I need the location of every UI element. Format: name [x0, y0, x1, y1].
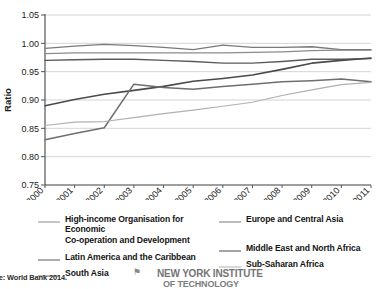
- legend-label-south-asia: South Asia: [65, 268, 109, 278]
- legend-item-latin-america-caribbean: Latin America and the Caribbean: [38, 252, 213, 264]
- legend-label-middle-east-north-africa: Middle East and North Africa: [246, 243, 360, 253]
- svg-text:2002: 2002: [83, 185, 104, 200]
- svg-text:2001: 2001: [54, 185, 75, 200]
- svg-text:2003: 2003: [113, 185, 134, 200]
- svg-text:2006: 2006: [202, 185, 223, 200]
- x-axis-tick-label: 2008: [261, 185, 282, 200]
- legend-item-high-income-oecd: High-income Organisation for Economic Co…: [38, 214, 213, 245]
- y-axis-title: Ratio: [2, 88, 13, 112]
- x-axis-tick-label: 2006: [202, 185, 223, 200]
- legend-item-europe-central-asia: Europe and Central Asia: [219, 214, 376, 226]
- series-line-3: [45, 58, 371, 106]
- x-axis-tick-label: 2001: [54, 185, 75, 200]
- svg-text:2005: 2005: [172, 185, 193, 200]
- svg-text:2004: 2004: [143, 185, 164, 200]
- legend-swatch-latin-america-caribbean: [38, 255, 60, 264]
- legend-label-sub-saharan-africa: Sub-Saharan Africa: [246, 259, 324, 269]
- legend-swatch-high-income-oecd: [38, 217, 60, 226]
- svg-text:2010: 2010: [321, 185, 342, 200]
- x-axis-tick-label: 2010: [321, 185, 342, 200]
- legend-swatch-europe-central-asia: [219, 217, 241, 226]
- x-axis-tick-label: 2004: [143, 185, 164, 200]
- legend-label-high-income-oecd: High-income Organisation for Economic Co…: [65, 214, 213, 245]
- x-axis-tick-label: 2002: [83, 185, 104, 200]
- x-axis-tick-label: 2005: [172, 185, 193, 200]
- legend-item-sub-saharan-africa: Sub-Saharan Africa: [219, 259, 376, 271]
- y-axis-tick-label: 0.90: [21, 95, 39, 105]
- y-axis-tick-label: 0.85: [21, 124, 39, 134]
- x-axis-tick-label: 2011: [351, 185, 372, 200]
- legend-label-europe-central-asia: Europe and Central Asia: [246, 214, 343, 224]
- svg-text:2007: 2007: [232, 185, 253, 200]
- legend-label-latin-america-caribbean: Latin America and the Caribbean: [65, 252, 196, 262]
- svg-text:Ratio: Ratio: [2, 88, 13, 112]
- x-axis-tick-label: 2003: [113, 185, 134, 200]
- series-line-5: [45, 82, 371, 125]
- series-line-0: [45, 50, 371, 53]
- y-axis-tick-label: 0.80: [21, 152, 39, 162]
- x-axis-tick-label: 2007: [232, 185, 253, 200]
- source-note: rce: World Bank 2014.: [0, 273, 67, 282]
- legend-swatch-sub-saharan-africa: [219, 262, 241, 271]
- y-axis-tick-label: 1.05: [21, 10, 39, 20]
- x-axis-tick-label: 2009: [291, 185, 312, 200]
- legend-item-middle-east-north-africa: Middle East and North Africa: [219, 243, 376, 255]
- y-axis-tick-label: 0.95: [21, 67, 39, 77]
- y-axis-tick-label: 1.00: [21, 39, 39, 49]
- svg-text:2008: 2008: [261, 185, 282, 200]
- legend-column-right: Europe and Central Asia Middle East and …: [219, 214, 376, 275]
- chart-legend: High-income Organisation for Economic Co…: [0, 214, 376, 272]
- svg-text:2011: 2011: [351, 185, 372, 200]
- legend-swatch-middle-east-north-africa: [219, 246, 241, 255]
- plot-area: 0.750.800.850.900.951.001.05200020012002…: [0, 0, 376, 200]
- svg-text:2009: 2009: [291, 185, 312, 200]
- chart-figure: 0.750.800.850.900.951.001.05200020012002…: [0, 0, 376, 289]
- line-chart-svg: 0.750.800.850.900.951.001.05200020012002…: [0, 0, 376, 200]
- series-line-1: [45, 44, 371, 49]
